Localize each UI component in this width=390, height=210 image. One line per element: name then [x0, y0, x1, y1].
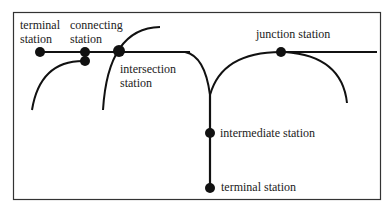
intersection-station-dot — [113, 45, 125, 57]
label-terminal-top-1: terminal — [20, 18, 61, 32]
station-types-diagram: terminal station connecting station inte… — [0, 0, 390, 210]
connecting-station-dot-b — [80, 56, 90, 66]
terminal-station-bottom-dot — [205, 183, 215, 193]
label-intermediate: intermediate station — [220, 126, 315, 140]
label-intersection-1: intersection — [120, 62, 176, 76]
label-terminal-bottom: terminal station — [221, 180, 296, 194]
label-connecting-2: station — [70, 32, 102, 46]
connecting-station-dot-a — [80, 47, 90, 57]
label-connecting-1: connecting — [70, 18, 123, 32]
label-intersection-2: station — [120, 76, 152, 90]
label-junction: junction station — [255, 27, 330, 41]
terminal-station-top-dot — [35, 47, 45, 57]
label-terminal-top-2: station — [20, 32, 52, 46]
intermediate-station-dot — [205, 128, 215, 138]
junction-station-dot — [276, 47, 286, 57]
